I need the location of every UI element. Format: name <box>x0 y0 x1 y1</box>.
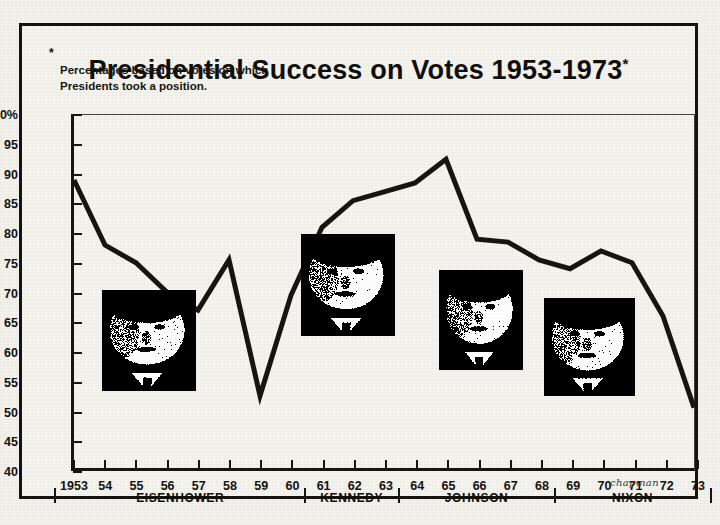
nixon-photo <box>544 298 635 396</box>
eisenhower-photo <box>102 290 196 391</box>
y-axis-label: 85 <box>0 197 18 211</box>
president-label-johnson: JOHNSON <box>445 491 509 505</box>
y-axis-tick <box>73 471 82 473</box>
footnote-text: Percentages based on votes on which Pres… <box>60 64 268 93</box>
president-separator <box>54 488 56 503</box>
president-separator <box>554 488 556 503</box>
artist-signature: chapman <box>610 477 659 488</box>
president-label-nixon: NIXON <box>612 491 653 505</box>
kennedy-photo <box>301 234 395 336</box>
president-separator <box>304 488 306 503</box>
y-axis-label: 100% <box>0 108 18 122</box>
chart-frame: Presidential Success on Votes 1953-1973*… <box>19 23 698 499</box>
president-band: EISENHOWERKENNEDYJOHNSONNIXON <box>71 488 695 510</box>
y-axis-label: 95 <box>0 138 18 152</box>
y-axis-label: 75 <box>0 257 18 271</box>
y-axis-label: 70 <box>0 287 18 301</box>
y-axis-label: 60 <box>0 346 18 360</box>
footnote-asterisk: * <box>49 45 54 62</box>
y-axis-label: 40 <box>0 465 18 479</box>
y-axis-label: 90 <box>0 168 18 182</box>
y-axis-label: 65 <box>0 316 18 330</box>
chart-footnote: *Percentages based on votes on which Pre… <box>60 45 268 95</box>
chart-title-asterisk: * <box>623 55 629 72</box>
president-separator <box>710 488 712 503</box>
president-label-eisenhower: EISENHOWER <box>136 491 224 505</box>
y-axis-label: 45 <box>0 435 18 449</box>
y-axis-label: 55 <box>0 376 18 390</box>
y-axis-label: 50 <box>0 406 18 420</box>
x-axis-tick <box>697 460 699 469</box>
chart-page: Presidential Success on Votes 1953-1973*… <box>0 0 720 525</box>
y-axis-label: 80 <box>0 227 18 241</box>
president-separator <box>398 488 400 503</box>
johnson-photo <box>439 270 523 370</box>
president-label-kennedy: KENNEDY <box>320 491 383 505</box>
